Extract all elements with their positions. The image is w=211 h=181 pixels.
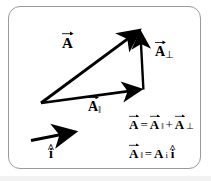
eq2-coefficient-symbol: A: [154, 147, 163, 160]
label-vector-A-parallel: A ‖: [88, 100, 101, 116]
eq1-lhs-symbol: A: [129, 117, 138, 132]
eq2-coefficient-subscript: i: [165, 151, 167, 160]
eq1-term1-symbol: A: [150, 117, 159, 132]
label-A-par-symbol: A: [88, 99, 98, 114]
eq1-plus: +: [165, 118, 172, 131]
label-unit-vector-i: ˄ i: [49, 147, 53, 161]
equation-vector-sum: A = A ‖ + A ⊥: [129, 118, 194, 131]
vector-decomposition-figure: A A ⊥ A ‖ ˄: [0, 0, 211, 181]
label-A-par-subscript: ‖: [98, 105, 100, 115]
label-vector-A-symbol: A: [62, 35, 73, 51]
label-A-perp-symbol: A: [155, 44, 165, 59]
vector-A-perpendicular-arrow: [140, 33, 143, 90]
eq2-lhs-subscript: ‖: [140, 151, 142, 160]
eq2-equals: =: [145, 147, 152, 160]
eq1-term2-symbol: A: [175, 117, 184, 132]
eq1-term1-subscript: ‖: [161, 122, 163, 131]
bottom-edge-strip: [0, 176, 211, 181]
vector-arrows-canvas: [0, 0, 211, 181]
eq1-term2-subscript: ⊥: [186, 122, 194, 131]
label-vector-A: A: [62, 36, 73, 51]
hat-accent-icon: ˄: [48, 142, 55, 154]
eq1-equals: =: [140, 118, 147, 131]
label-vector-A-perpendicular: A ⊥: [155, 45, 174, 61]
label-A-perp-subscript: ⊥: [165, 50, 174, 60]
eq2-lhs-symbol: A: [129, 146, 138, 161]
hat-accent-icon: ˄: [169, 142, 175, 153]
equation-parallel-component: A ‖ = Ai ˄ i: [129, 147, 174, 160]
